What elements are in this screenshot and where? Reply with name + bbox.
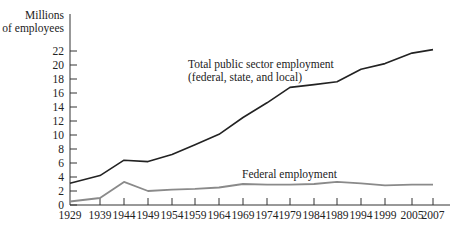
x-tick-label: 1944: [113, 209, 136, 221]
y-tick-label: 6: [58, 157, 64, 169]
y-axis-title-line-1: Millions: [25, 9, 65, 21]
x-tick-label: 1989: [326, 209, 349, 221]
total-series-label-line-2: (federal, state, and local): [188, 71, 302, 84]
y-tick-label: 16: [53, 87, 65, 99]
x-tick-label: 1979: [279, 209, 302, 221]
y-axis-title-line-2: of employees: [2, 22, 64, 35]
x-tick-label: 1994: [350, 209, 373, 221]
y-tick-label: 18: [53, 73, 65, 85]
y-tick-label: 20: [53, 59, 65, 71]
x-tick-label: 1974: [256, 209, 279, 221]
x-tick-label: 1999: [374, 209, 397, 221]
x-tick-label: 1949: [137, 209, 160, 221]
y-tick-label: 22: [53, 45, 65, 57]
x-tick-label: 1954: [161, 209, 184, 221]
x-tick-label: 1964: [208, 209, 231, 221]
x-tick-label: 1984: [303, 209, 326, 221]
x-tick-label: 1969: [232, 209, 255, 221]
y-tick-label: 2: [58, 185, 64, 197]
y-tick-label: 14: [53, 101, 65, 113]
y-axis-ticks: 0246810121416182022: [53, 45, 78, 211]
x-tick-label: 1929: [59, 209, 82, 221]
y-axis-title: Millions of employees: [2, 9, 64, 35]
y-tick-label: 4: [58, 171, 64, 183]
y-tick-label: 10: [53, 129, 65, 141]
series-annotations: Total public sector employment (federal,…: [188, 58, 338, 181]
x-tick-label: 1959: [184, 209, 207, 221]
line-chart: Millions of employees 024681012141618202…: [0, 0, 455, 225]
federal-series-label: Federal employment: [242, 168, 338, 181]
y-tick-label: 8: [58, 143, 64, 155]
x-tick-label: 2007: [422, 209, 445, 221]
x-tick-label: 1939: [89, 209, 112, 221]
total-series-label-line-1: Total public sector employment: [188, 58, 335, 71]
x-tick-label: 2005: [401, 209, 424, 221]
y-tick-label: 12: [53, 115, 65, 127]
x-axis-ticks: 1929193919441949195419591964196919741979…: [59, 198, 445, 221]
